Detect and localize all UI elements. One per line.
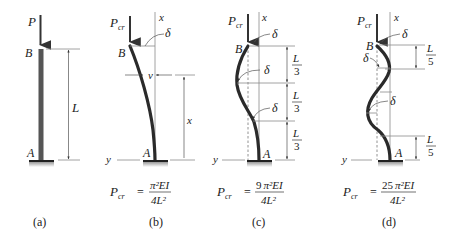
panel-b: x y Pcr B A δ v x Pcr = π²EI — [105, 11, 195, 229]
svg-text:=: = — [370, 185, 377, 199]
load-label: Pcr — [109, 15, 126, 32]
delta-label-mid: δ — [264, 63, 270, 77]
caption-c: (c) — [252, 215, 265, 229]
panel-a: P B A L (a) — [25, 14, 82, 229]
svg-text:Pcr: Pcr — [109, 184, 126, 201]
point-a-label: A — [142, 146, 151, 160]
load-label: Pcr — [356, 13, 373, 30]
y-axis-label: y — [341, 153, 347, 165]
fixed-support — [247, 160, 272, 167]
panel-c: x y Pcr B A δ δ δ L 3 — [212, 11, 302, 229]
delta-label-top: δ — [402, 27, 408, 41]
caption-a: (a) — [33, 215, 46, 229]
svg-text:L: L — [426, 133, 433, 145]
column — [39, 49, 44, 160]
fixed-support — [378, 160, 403, 167]
critical-load-formula: Pcr = 25π²EI 4L² — [342, 179, 416, 206]
panel-d: x y Pcr B A δ δ δ L — [341, 11, 436, 229]
x-axis-label: x — [261, 11, 267, 23]
y-axis-label: y — [212, 153, 218, 165]
caption-b: (b) — [149, 215, 163, 229]
deflected-column — [130, 46, 155, 160]
x-dim-label: x — [186, 114, 192, 126]
deflected-column — [368, 46, 390, 160]
point-a-label: A — [26, 146, 35, 160]
point-b-label: B — [118, 46, 126, 60]
load-label: P — [27, 14, 36, 29]
critical-load-formula: Pcr = π²EI 4L² — [109, 179, 171, 206]
critical-load-formula: Pcr = 9π²EI 4L² — [216, 179, 284, 206]
segment-label-2: L 3 — [292, 89, 302, 114]
point-a-label: A — [394, 146, 403, 160]
svg-text:L: L — [292, 127, 299, 139]
formula-denominator: 4L² — [151, 194, 167, 206]
fixed-support — [29, 160, 54, 167]
formula-numerator: π²EI — [150, 179, 171, 191]
svg-text:5: 5 — [428, 146, 434, 158]
formula-numerator: 25π²EI — [382, 179, 416, 191]
svg-text:3: 3 — [294, 140, 300, 152]
length-label: L — [71, 100, 79, 115]
svg-text:Pcr: Pcr — [342, 184, 359, 201]
svg-text:L: L — [292, 89, 299, 101]
svg-text:L: L — [426, 42, 433, 54]
delta-label-top: δ — [272, 27, 278, 41]
formula-denominator: 4L² — [261, 194, 277, 206]
segment-label-bottom: L 5 — [426, 133, 436, 158]
caption-d: (d) — [382, 215, 396, 229]
v-label: v — [148, 69, 153, 81]
svg-text:=: = — [244, 185, 251, 199]
delta-label-upper: δ — [363, 51, 369, 65]
fixed-support — [143, 160, 168, 167]
delta-label-low: δ — [272, 101, 278, 115]
y-axis-label: y — [105, 153, 111, 165]
svg-text:L: L — [292, 52, 299, 64]
delta-leader — [145, 34, 164, 46]
svg-text:5: 5 — [428, 55, 434, 67]
svg-text:=: = — [137, 185, 144, 199]
load-label: Pcr — [227, 13, 244, 30]
point-b-label: B — [235, 42, 243, 56]
point-a-label: A — [262, 147, 271, 161]
svg-text:3: 3 — [294, 65, 300, 77]
x-axis-label: x — [393, 11, 399, 23]
delta-label-lower: δ — [390, 94, 396, 108]
buckling-modes-diagram: P B A L (a) x y Pcr B A — [0, 0, 451, 232]
svg-text:3: 3 — [294, 102, 300, 114]
point-b-label: B — [25, 46, 33, 60]
segment-label-3: L 3 — [292, 127, 302, 152]
x-axis-label: x — [158, 11, 164, 23]
segment-label-1: L 3 — [292, 52, 302, 77]
formula-denominator: 4L² — [390, 194, 406, 206]
segment-label-top: L 5 — [426, 42, 436, 67]
svg-text:Pcr: Pcr — [216, 184, 233, 201]
formula-numerator: 9π²EI — [256, 179, 284, 191]
delta-label: δ — [165, 26, 171, 40]
